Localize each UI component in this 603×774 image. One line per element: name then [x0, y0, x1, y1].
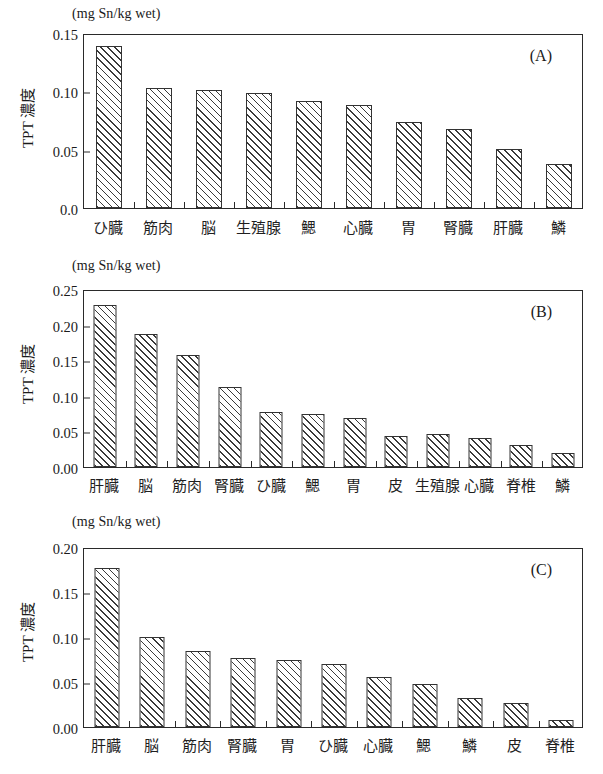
y-tick-label: 0.15: [53, 354, 78, 371]
bar-slot: [84, 291, 126, 467]
y-tick-mark: [84, 639, 90, 640]
x-axis-category-label: 生殖腺: [415, 474, 460, 495]
y-tick-label: 0.00: [53, 461, 78, 478]
x-axis-category-label: 腎臓: [214, 474, 244, 495]
bar-slot: [84, 549, 129, 727]
y-tick-mark: [84, 93, 90, 94]
y-axis-title-a: TPT 濃度: [0, 58, 32, 178]
bar: [177, 355, 200, 467]
bar-slot: [129, 549, 174, 727]
y-tick-label: 0.10: [53, 85, 78, 102]
y-tick-label: 0.25: [53, 283, 78, 300]
x-axis-category-label: 筋肉: [172, 474, 202, 495]
bar: [396, 122, 422, 208]
y-tick-label: 0.00: [53, 721, 78, 738]
y-tick-mark: [84, 397, 90, 398]
x-axis-category-label: ひ臓: [256, 474, 286, 495]
x-axis-category-label: 鰓: [416, 734, 431, 755]
x-axis-category-label: 腎臓: [443, 216, 473, 237]
x-axis-category-label: 脊椎: [506, 474, 536, 495]
bar-slot: [234, 35, 284, 208]
y-tick-mark: [84, 362, 90, 363]
x-axis-category-label: 胃: [280, 734, 295, 755]
bar: [94, 568, 119, 727]
x-axis-category-label: 肝臓: [493, 216, 523, 237]
plot-area-c: (C) 0.000.050.100.150.20: [83, 548, 583, 728]
bar-slot: [334, 291, 376, 467]
bar-slot: [417, 291, 459, 467]
bar: [412, 684, 437, 727]
y-tick-label: 0.10: [53, 389, 78, 406]
bar-slot: [459, 291, 501, 467]
x-axis-category-label: 脳: [201, 216, 216, 237]
bar: [427, 434, 450, 467]
bar-slot: [184, 35, 234, 208]
y-tick-label: 0.20: [53, 541, 78, 558]
bar: [346, 105, 372, 208]
x-axis-category-label: 皮: [388, 474, 403, 495]
y-tick-label: 0.10: [53, 631, 78, 648]
chart-panel-a: (mg Sn/kg wet) TPT 濃度 (A) 0.00.050.100.1…: [0, 0, 603, 250]
x-axis-category-label: 鱗: [555, 474, 570, 495]
bar-group-c: [84, 549, 582, 727]
bar: [549, 720, 574, 727]
bar-slot: [334, 35, 384, 208]
x-axis-category-label: 脊椎: [545, 734, 575, 755]
x-axis-category-label: 筋肉: [143, 216, 173, 237]
x-axis-category-label: 胃: [401, 216, 416, 237]
bar-slot: [434, 35, 484, 208]
y-axis-title-c: TPT 濃度: [0, 572, 32, 692]
x-axis-category-label: 心臓: [464, 474, 494, 495]
bar: [546, 164, 572, 208]
bar-slot: [134, 35, 184, 208]
panel-letter-a: (A): [530, 47, 552, 65]
bar: [343, 418, 366, 467]
bar: [146, 88, 172, 208]
x-axis-category-label: 鰓: [305, 474, 320, 495]
bar-slot: [357, 549, 402, 727]
bar: [552, 453, 575, 467]
bar: [218, 387, 241, 467]
y-tick-mark: [84, 326, 90, 327]
bar-slot: [126, 291, 168, 467]
bar-slot: [84, 35, 134, 208]
bar: [196, 90, 222, 208]
bar: [503, 703, 528, 727]
x-axis-category-label: 生殖腺: [236, 216, 281, 237]
bar-slot: [220, 549, 265, 727]
bar-slot: [376, 291, 418, 467]
bar: [510, 445, 533, 467]
y-tick-mark: [84, 684, 90, 685]
bar: [246, 93, 272, 209]
bar-slot: [484, 35, 534, 208]
x-axis-category-label: 鰓: [301, 216, 316, 237]
y-tick-label: 0.15: [53, 27, 78, 44]
y-tick-mark: [84, 151, 90, 152]
bar: [185, 651, 210, 727]
bar: [140, 637, 165, 727]
bar: [96, 46, 122, 208]
x-axis-category-label: 鱗: [462, 734, 477, 755]
bar-group-b: [84, 291, 582, 467]
y-tick-label: 0.20: [53, 318, 78, 335]
bar: [276, 660, 301, 727]
units-label-b: (mg Sn/kg wet): [72, 258, 161, 274]
bar-slot: [402, 549, 447, 727]
x-axis-category-label: 肝臓: [89, 474, 119, 495]
x-axis-category-label: 肝臓: [91, 734, 121, 755]
bar-slot: [292, 291, 334, 467]
bar: [385, 436, 408, 467]
y-tick-mark: [84, 594, 90, 595]
bar-slot: [284, 35, 334, 208]
bar: [302, 414, 325, 467]
bar: [296, 101, 322, 208]
plot-area-b: (B) 0.000.050.100.150.200.25: [83, 290, 583, 468]
bar-group-a: [84, 35, 582, 208]
bar-slot: [266, 549, 311, 727]
panel-letter-b: (B): [531, 303, 552, 321]
bar: [321, 664, 346, 727]
bar-slot: [448, 549, 493, 727]
bar-slot: [167, 291, 209, 467]
y-tick-label: 0.05: [53, 143, 78, 160]
bar: [468, 438, 491, 467]
